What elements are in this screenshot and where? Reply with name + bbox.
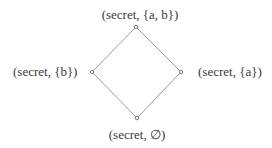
nodes — [90, 25, 183, 120]
edge-left-bottom — [92, 72, 137, 118]
edge-right-bottom — [137, 72, 181, 118]
node-left — [90, 70, 94, 74]
edge-top-right — [136, 27, 181, 72]
node-right — [179, 70, 183, 74]
node-top — [134, 25, 138, 29]
node-label-top: (secret, {a, b}) — [102, 8, 179, 22]
node-label-left: (secret, {b}) — [13, 65, 77, 79]
edge-top-left — [92, 27, 136, 72]
node-label-bottom: (secret, ∅) — [109, 128, 165, 142]
edges — [92, 27, 181, 118]
node-label-right: (secret, {a}) — [198, 65, 262, 79]
node-bottom — [135, 116, 139, 120]
